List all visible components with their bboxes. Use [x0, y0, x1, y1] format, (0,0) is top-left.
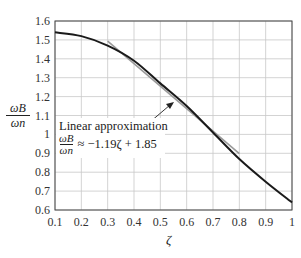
y-tick-label: 0.7 — [20, 185, 50, 197]
y-tick-label: 0.6 — [20, 204, 50, 216]
annotation-numerator: ωB — [59, 133, 74, 144]
linear-approximation-annotation: Linear approximation ωB ωn ≈ −1.19ζ + 1.… — [56, 118, 165, 158]
y-tick-label: 1.6 — [20, 15, 50, 27]
y-axis-label-numerator: ωB — [4, 102, 32, 114]
y-tick-label: 0.8 — [20, 166, 50, 178]
annotation-rhs: ≈ −1.19ζ + 1.85 — [78, 137, 157, 152]
y-axis-label: ωB ωn — [4, 102, 32, 129]
annotation-denominator: ωn — [59, 145, 74, 156]
y-tick-label: 0.9 — [20, 147, 50, 159]
y-axis-label-denominator: ωn — [4, 117, 32, 129]
grid-lines — [55, 21, 292, 210]
y-tick-label: 1.3 — [20, 72, 50, 84]
y-tick-label: 1.4 — [20, 53, 50, 65]
annotation-title: Linear approximation — [59, 119, 163, 133]
x-tick-label: 1 — [277, 216, 301, 228]
y-tick-label: 1 — [20, 128, 50, 140]
annotation-fraction: ωB ωn — [59, 133, 74, 156]
annotation-equation: ωB ωn ≈ −1.19ζ + 1.85 — [59, 133, 163, 156]
y-tick-label: 1.5 — [20, 34, 50, 46]
x-axis-label: ζ — [166, 232, 171, 248]
